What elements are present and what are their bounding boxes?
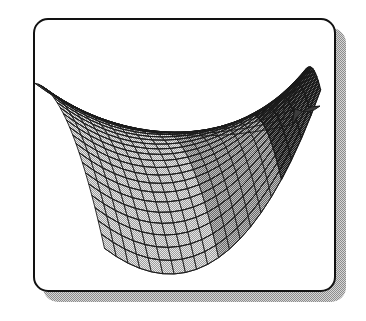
figure-frame-border [33, 18, 336, 292]
surface-mesh-plot [35, 20, 334, 290]
figure-canvas [0, 0, 366, 321]
